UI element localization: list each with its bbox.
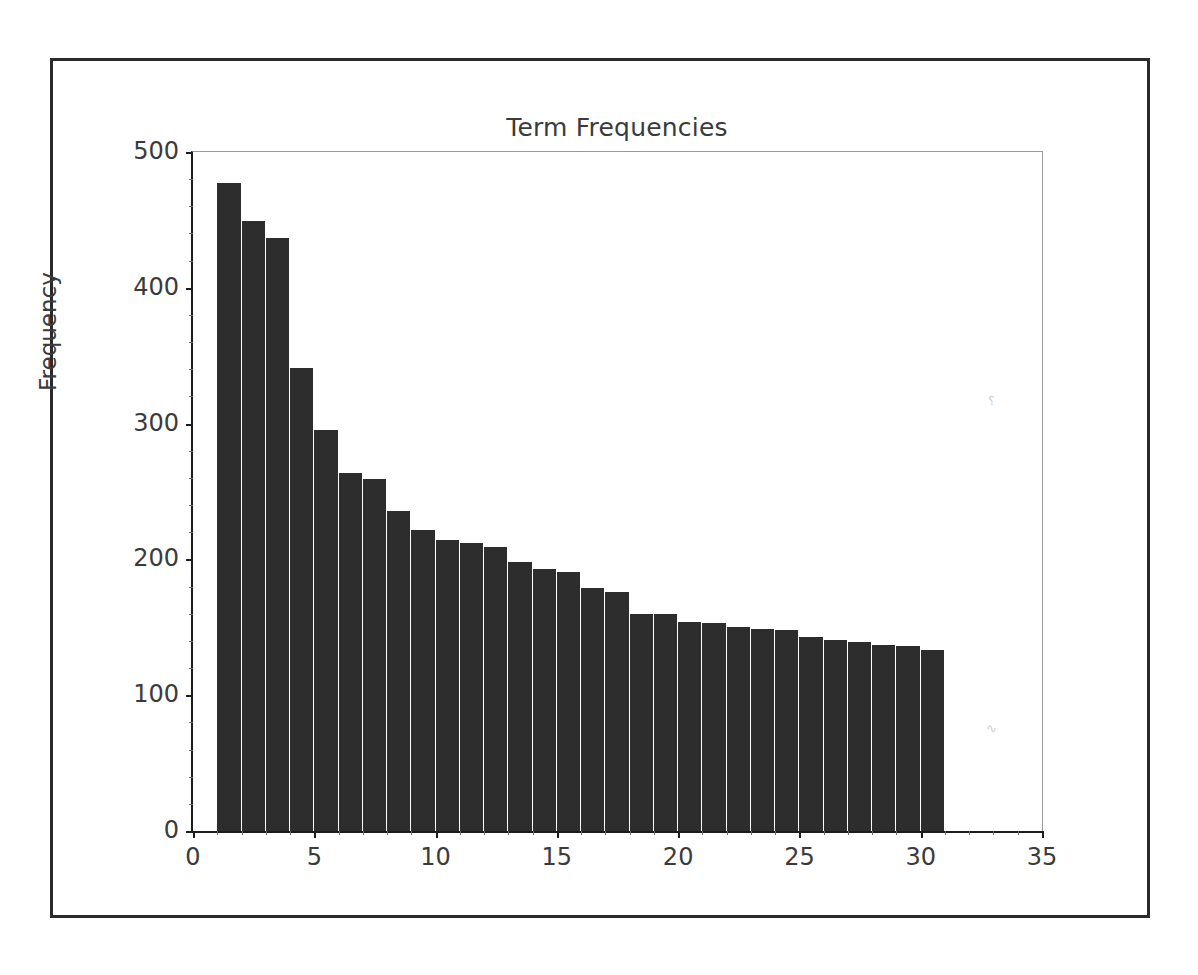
y-minor-tick	[189, 261, 193, 262]
scan-artifact: ⸮	[988, 393, 995, 408]
y-minor-tick	[189, 369, 193, 370]
y-tick-mark	[186, 424, 193, 426]
y-minor-tick	[189, 206, 193, 207]
x-minor-tick	[896, 831, 897, 835]
bar	[751, 629, 775, 831]
bar	[484, 547, 508, 831]
y-minor-tick	[189, 478, 193, 479]
bar	[605, 592, 629, 831]
x-tick-mark	[314, 831, 316, 838]
x-minor-tick	[654, 831, 655, 835]
x-tick-label: 10	[420, 843, 451, 871]
x-tick-label: 25	[784, 843, 815, 871]
bar	[436, 540, 460, 831]
x-minor-tick	[945, 831, 946, 835]
x-minor-tick	[460, 831, 461, 835]
bar	[387, 511, 411, 831]
x-minor-tick	[266, 831, 267, 835]
bar	[727, 627, 751, 831]
x-tick-mark	[678, 831, 680, 838]
x-minor-tick	[993, 831, 994, 835]
x-tick-mark	[1042, 831, 1044, 838]
y-minor-tick	[189, 451, 193, 452]
x-tick-label: 35	[1027, 843, 1058, 871]
bar	[363, 479, 387, 831]
bar	[533, 569, 557, 831]
y-tick-mark	[186, 695, 193, 697]
bar	[630, 614, 654, 831]
bar	[824, 640, 848, 831]
bar	[678, 622, 702, 831]
x-tick-label: 15	[542, 843, 573, 871]
x-minor-tick	[605, 831, 606, 835]
y-minor-tick	[189, 777, 193, 778]
x-minor-tick	[848, 831, 849, 835]
x-minor-tick	[824, 831, 825, 835]
x-minor-tick	[411, 831, 412, 835]
x-tick-label: 20	[663, 843, 694, 871]
figure-page: Term Frequencies Frequency 0100200300400…	[0, 0, 1198, 975]
x-tick-mark	[921, 831, 923, 838]
x-tick-mark	[436, 831, 438, 838]
x-minor-tick	[702, 831, 703, 835]
bar	[799, 637, 823, 831]
bar	[217, 183, 241, 831]
y-tick-label: 400	[133, 272, 179, 300]
bar	[411, 530, 435, 831]
x-minor-tick	[290, 831, 291, 835]
y-minor-tick	[189, 614, 193, 615]
bar	[896, 646, 920, 831]
y-minor-tick	[189, 505, 193, 506]
bar	[872, 645, 896, 831]
y-tick-label: 500	[133, 137, 179, 165]
x-minor-tick	[217, 831, 218, 835]
y-minor-tick	[189, 396, 193, 397]
bar	[581, 588, 605, 831]
y-tick-mark	[186, 152, 193, 154]
bar	[314, 430, 338, 831]
y-tick-mark	[186, 559, 193, 561]
y-tick-mark	[186, 831, 193, 833]
y-minor-tick	[189, 641, 193, 642]
x-minor-tick	[581, 831, 582, 835]
x-minor-tick	[969, 831, 970, 835]
y-minor-tick	[189, 804, 193, 805]
x-minor-tick	[339, 831, 340, 835]
x-minor-tick	[387, 831, 388, 835]
x-minor-tick	[775, 831, 776, 835]
y-tick-label: 100	[133, 680, 179, 708]
x-tick-mark	[557, 831, 559, 838]
x-minor-tick	[1018, 831, 1019, 835]
y-minor-tick	[189, 179, 193, 180]
bar	[921, 650, 945, 831]
x-minor-tick	[363, 831, 364, 835]
bar	[702, 623, 726, 831]
y-minor-tick	[189, 532, 193, 533]
y-minor-tick	[189, 315, 193, 316]
y-tick-label: 200	[133, 544, 179, 572]
bar	[508, 562, 532, 831]
x-minor-tick	[508, 831, 509, 835]
chart-title: Term Frequencies	[191, 113, 1043, 142]
y-minor-tick	[189, 233, 193, 234]
plot-area: 0100200300400500 05101520253035	[191, 151, 1043, 833]
bar	[654, 614, 678, 831]
x-minor-tick	[727, 831, 728, 835]
x-minor-tick	[872, 831, 873, 835]
bar	[460, 543, 484, 831]
bar	[557, 572, 581, 831]
scan-artifact: ∿	[986, 721, 997, 736]
figure-frame: Term Frequencies Frequency 0100200300400…	[50, 58, 1150, 918]
bar	[290, 368, 314, 831]
bars-layer	[193, 152, 1042, 831]
y-minor-tick	[189, 750, 193, 751]
bar	[775, 630, 799, 831]
y-axis-label: Frequency	[35, 272, 61, 391]
y-tick-mark	[186, 288, 193, 290]
y-tick-label: 0	[164, 816, 179, 844]
x-tick-label: 30	[905, 843, 936, 871]
y-minor-tick	[189, 342, 193, 343]
x-minor-tick	[533, 831, 534, 835]
bar	[848, 642, 872, 831]
bar	[339, 473, 363, 832]
